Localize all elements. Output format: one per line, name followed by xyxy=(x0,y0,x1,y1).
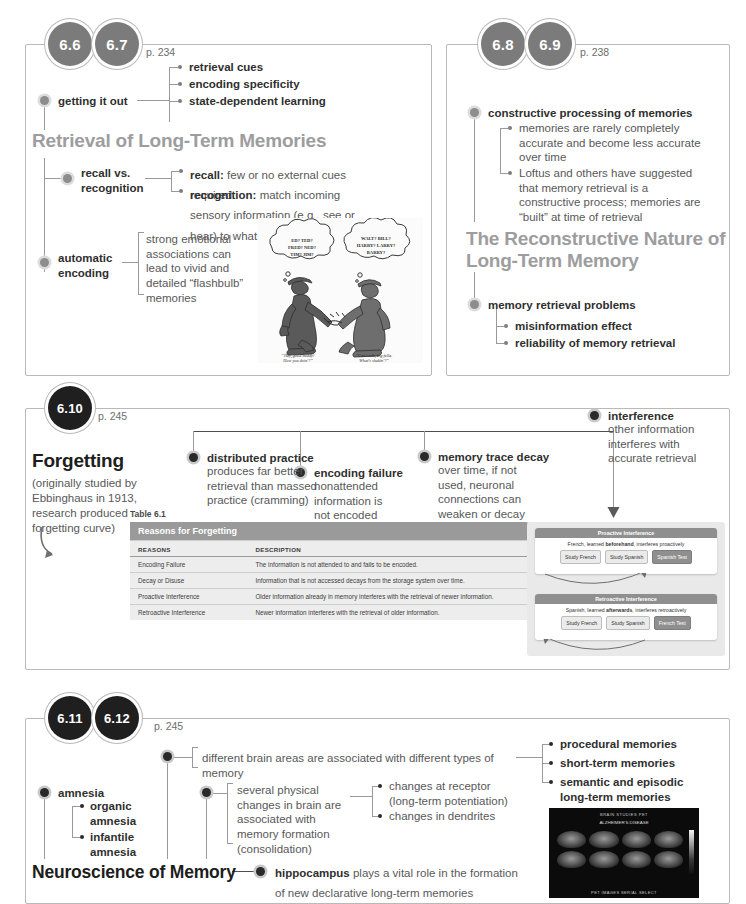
step-french-test[interactable]: French Test xyxy=(654,616,691,630)
connector xyxy=(72,837,80,838)
node-physical-changes-dot xyxy=(202,788,211,797)
connector xyxy=(350,796,372,797)
proactive-arrow-icon xyxy=(541,573,651,589)
table-caption: Table 6.1 xyxy=(130,509,535,519)
connector xyxy=(169,101,178,102)
step-study-spanish[interactable]: Study Spanish xyxy=(606,616,649,630)
heading-reconstructive-nature: The Reconstructive Nature of Long-Term M… xyxy=(466,228,728,273)
connector xyxy=(171,191,179,192)
leaf-semantic-episodic: semantic and episodic long-term memories xyxy=(560,775,683,804)
badge-6-11[interactable]: 6.11 xyxy=(48,696,92,740)
cell-description: The information is not attended to and f… xyxy=(247,557,535,573)
connector xyxy=(227,783,228,843)
down-arrow-icon xyxy=(607,505,620,519)
node-distributed-practice-dot xyxy=(189,453,198,462)
leaf-misinformation-effect: misinformation effect xyxy=(515,319,632,334)
cartoon-illustration: ED? TED? FRED? NED? TIM? JIM? WALT? BILL… xyxy=(258,218,423,363)
leaf-dot xyxy=(178,99,182,103)
cap-b: beforehand xyxy=(605,541,633,547)
connector xyxy=(137,100,169,101)
connector xyxy=(500,173,508,174)
table-6-1: Table 6.1 Reasons for Forgetting REASONS… xyxy=(130,509,535,620)
svg-text:BARRY?: BARRY? xyxy=(367,250,386,255)
node-memory-trace-decay-dot xyxy=(420,452,429,461)
node-interference-dot xyxy=(590,411,599,420)
text-distributed-practice: produces far better retrieval than masse… xyxy=(207,464,325,508)
svg-text:What's shakin'?”: What's shakin'?” xyxy=(359,358,389,363)
badge-6-9[interactable]: 6.9 xyxy=(528,22,572,66)
leaf-encoding-specificity: encoding specificity xyxy=(189,77,300,92)
step-study-french[interactable]: Study French xyxy=(561,616,602,630)
page-ref-245-b: p. 245 xyxy=(154,720,183,732)
badge-6-6[interactable]: 6.6 xyxy=(48,22,92,66)
badge-label: 6.10 xyxy=(57,401,83,416)
cartoon-svg: ED? TED? FRED? NED? TIM? JIM? WALT? BILL… xyxy=(258,218,423,363)
leaf-dot xyxy=(549,761,553,765)
connector xyxy=(171,171,172,192)
spine xyxy=(206,797,207,859)
connector xyxy=(227,843,233,844)
brain-slice xyxy=(654,831,683,848)
leaf-loftus: Loftus and others have suggested that me… xyxy=(519,166,709,225)
connector xyxy=(227,783,233,784)
badge-label: 6.7 xyxy=(106,36,127,53)
node-constructive-processing: constructive processing of memories xyxy=(488,106,693,121)
proactive-steps: Study French Study Spanish Spanish Test xyxy=(535,548,717,569)
page-ref-234: p. 234 xyxy=(146,46,175,58)
connector xyxy=(193,431,194,455)
recognition-term: recognition: xyxy=(190,189,256,201)
table-row: Encoding Failure The information is not … xyxy=(130,557,535,573)
cell-reason: Retroactive Interference xyxy=(130,605,247,621)
proactive-caption: French, learned beforehand, interferes p… xyxy=(535,538,717,548)
connector xyxy=(72,806,80,807)
leaf-organic-amnesia: organic amnesia xyxy=(90,799,136,828)
step-study-spanish[interactable]: Study Spanish xyxy=(605,550,648,564)
node-brain-areas-dot xyxy=(163,752,172,761)
text-hippocampus: hippocampus plays a vital role in the fo… xyxy=(275,862,525,903)
leaf-retrieval-cues: retrieval cues xyxy=(189,60,263,75)
badge-6-7[interactable]: 6.7 xyxy=(95,22,139,66)
leaf-dot xyxy=(549,780,553,784)
text-physical-changes: several physical changes in brain are as… xyxy=(237,783,347,857)
top-rule xyxy=(193,431,613,432)
badge-label: 6.12 xyxy=(104,711,130,726)
retroactive-title: Retroactive Interference xyxy=(535,594,717,604)
leaf-dot xyxy=(179,169,183,173)
connector xyxy=(542,763,549,764)
node-memory-retrieval-problems: memory retrieval problems xyxy=(488,298,636,313)
leaf-short-term-memories: short-term memories xyxy=(560,756,675,771)
badge-6-8[interactable]: 6.8 xyxy=(481,22,525,66)
connector xyxy=(169,84,178,85)
svg-text:ED? TED?: ED? TED? xyxy=(291,238,313,243)
scan-slices xyxy=(549,825,699,868)
interference-figure: Proactive Interference French, learned b… xyxy=(527,522,725,656)
scan-bottom-label: PET IMAGES SERIAL SELECT xyxy=(549,890,699,895)
node-recall-recognition: recall vs. recognition xyxy=(81,166,144,195)
retroactive-steps: Study French Study Spanish French Test xyxy=(535,614,717,635)
connector xyxy=(372,786,373,816)
step-study-french[interactable]: Study French xyxy=(560,550,601,564)
step-spanish-test[interactable]: Spanish Test xyxy=(652,550,692,564)
connector xyxy=(192,747,198,748)
connector xyxy=(169,67,178,68)
leaf-dot xyxy=(80,835,84,839)
brain-slice xyxy=(622,851,651,868)
heading-retrieval-ltm: Retrieval of Long-Term Memories xyxy=(32,130,392,152)
scan-top-label: BRAIN STUDIES PET xyxy=(549,812,699,817)
connector xyxy=(516,757,542,758)
connector xyxy=(72,806,73,837)
badge-6-10[interactable]: 6.10 xyxy=(48,386,92,430)
page-ref-238: p. 238 xyxy=(580,46,609,58)
leaf-dot xyxy=(80,804,84,808)
cell-reason: Decay or Disuse xyxy=(130,573,247,589)
leaf-dot xyxy=(378,784,382,788)
leaf-infantile-amnesia: infantile amnesia xyxy=(90,830,136,859)
spine xyxy=(474,117,475,222)
brain-slice xyxy=(654,851,683,868)
badge-label: 6.11 xyxy=(57,711,82,726)
cap-c: , interferes proactively xyxy=(634,541,685,547)
connector xyxy=(192,747,193,767)
connector xyxy=(496,326,504,327)
node-constructive-processing-dot xyxy=(470,108,479,117)
badge-6-12[interactable]: 6.12 xyxy=(95,696,139,740)
